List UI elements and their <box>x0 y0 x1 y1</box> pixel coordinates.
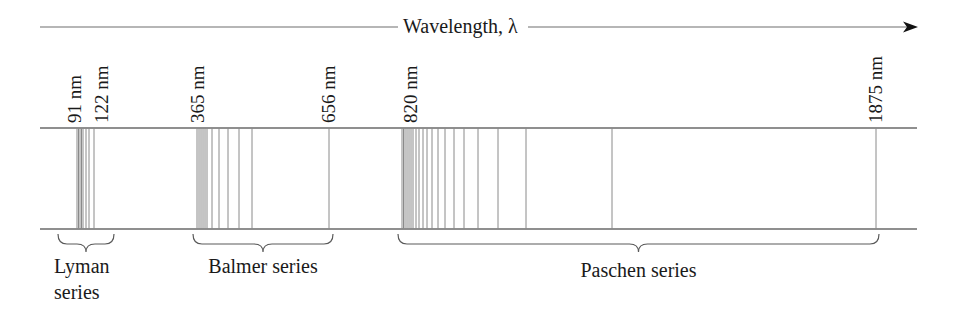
spectrum-band <box>40 128 917 229</box>
wavelength-label: 1875 nm <box>865 56 886 123</box>
wavelength-label: 820 nm <box>400 65 421 123</box>
wavelength-label: 122 nm <box>91 65 112 123</box>
wavelength-label: 656 nm <box>318 65 339 123</box>
series-label-lyman: series <box>54 281 100 303</box>
series-braces: LymanseriesBalmer seriesPaschen series <box>54 234 879 303</box>
wavelength-label: 365 nm <box>187 65 208 123</box>
wavelength-axis: Wavelength, λ <box>40 15 918 38</box>
brace-paschen <box>398 234 879 252</box>
wavelength-labels: 91 nm122 nm365 nm656 nm820 nm1875 nm <box>64 56 886 123</box>
hydrogen-spectrum-diagram: Wavelength, λ 91 nm122 nm365 nm656 nm820… <box>0 0 954 323</box>
brace-lyman <box>58 234 114 252</box>
spectral-lines <box>77 128 876 229</box>
series-label-lyman: Lyman <box>54 255 110 278</box>
axis-title: Wavelength, λ <box>403 15 518 38</box>
series-label-balmer: Balmer series <box>208 255 318 277</box>
series-label-paschen: Paschen series <box>580 259 696 281</box>
wavelength-label: 91 nm <box>64 75 85 123</box>
brace-balmer <box>193 234 333 252</box>
